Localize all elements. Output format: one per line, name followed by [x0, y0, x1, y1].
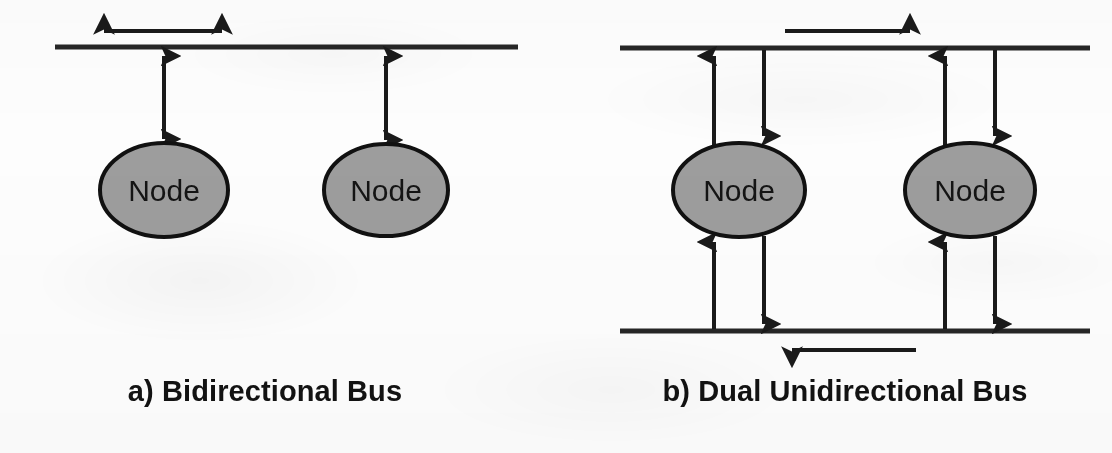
- node-label: Node: [703, 174, 775, 207]
- panel-b: Node Node: [620, 31, 1090, 350]
- node-shape[interactable]: Node: [324, 144, 448, 236]
- panel-a: Node Node: [55, 31, 518, 237]
- panel-b-caption: b) Dual Unidirectional Bus: [600, 377, 1090, 406]
- node-label: Node: [934, 174, 1006, 207]
- node-shape[interactable]: Node: [100, 143, 228, 237]
- panel-a-caption: a) Bidirectional Bus: [60, 377, 470, 406]
- node-shape[interactable]: Node: [673, 143, 805, 237]
- node-shape[interactable]: Node: [905, 143, 1035, 237]
- node-label: Node: [128, 174, 200, 207]
- figure-root: Node Node: [0, 0, 1112, 453]
- node-label: Node: [350, 174, 422, 207]
